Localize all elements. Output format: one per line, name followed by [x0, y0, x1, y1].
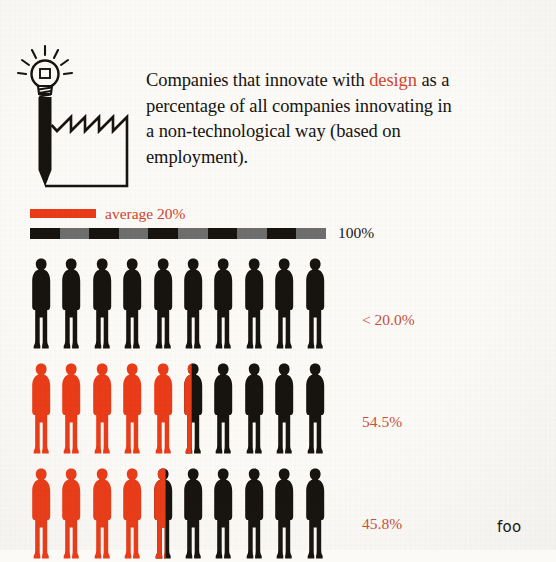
person-icon: [239, 256, 269, 352]
person-icon: [56, 466, 86, 562]
person-icon: [178, 466, 208, 562]
person-icon: [148, 256, 178, 352]
row-percentage-label: < 20.0%: [362, 311, 415, 329]
person-icon: [239, 361, 269, 457]
pictogram-figure-group: [26, 361, 330, 457]
row-percentage-label: 54.5%: [362, 413, 402, 431]
person-icon: [208, 466, 238, 562]
person-icon: [300, 466, 330, 562]
person-icon: [117, 361, 147, 457]
person-icon: [117, 466, 147, 562]
person-icon: [26, 361, 56, 457]
person-icon: [269, 361, 299, 457]
person-icon: [148, 466, 178, 562]
pictogram-figure-group: [26, 466, 330, 562]
person-icon: [148, 361, 178, 457]
person-icon: [56, 361, 86, 457]
pictogram-row: [26, 466, 330, 562]
person-icon: [178, 361, 208, 457]
person-icon: [300, 361, 330, 457]
person-icon: [117, 256, 147, 352]
person-icon: [208, 256, 238, 352]
person-icon: [178, 256, 208, 352]
row-percentage-label: 45.8%: [362, 515, 402, 533]
pictogram-row: [26, 256, 330, 352]
pictogram-figure-group: [26, 256, 330, 352]
person-icon: [87, 466, 117, 562]
person-icon: [87, 361, 117, 457]
pictogram-row: [26, 361, 330, 457]
cut-off-caption: foo: [497, 518, 522, 536]
person-icon: [269, 466, 299, 562]
person-icon: [300, 256, 330, 352]
person-icon: [26, 466, 56, 562]
person-icon: [269, 256, 299, 352]
person-icon: [87, 256, 117, 352]
person-icon: [56, 256, 86, 352]
person-icon: [26, 256, 56, 352]
person-icon: [239, 466, 269, 562]
person-icon: [208, 361, 238, 457]
